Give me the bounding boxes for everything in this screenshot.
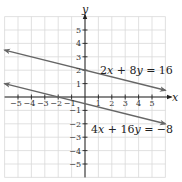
x-tick-label: 4 — [136, 99, 141, 108]
y-tick-label: 4 — [76, 39, 81, 48]
axes — [5, 15, 172, 178]
coordinate-plane: −5−4−3−2−112345−5−4−3−2−112345 y x 2x + … — [0, 0, 182, 182]
y-tick-label: −1 — [69, 106, 81, 115]
y-tick-label: 2 — [76, 66, 81, 75]
y-tick-label: −5 — [69, 160, 81, 169]
equation-label-1: 2x + 8y = 16 — [100, 64, 173, 77]
x-tick-label: −2 — [50, 99, 62, 108]
y-tick-label: 5 — [76, 26, 81, 35]
x-axis-label: x — [172, 91, 179, 104]
y-tick-label: −4 — [69, 147, 81, 156]
y-tick-label: 3 — [76, 53, 81, 62]
x-tick-label: −3 — [37, 99, 49, 108]
y-axis-label: y — [81, 3, 89, 16]
y-tick-label: −3 — [69, 133, 81, 142]
equation-label-2: 4x + 16y = −8 — [91, 123, 173, 136]
x-tick-label: 5 — [149, 99, 154, 108]
x-tick-label: 2 — [109, 99, 114, 108]
y-tick-label: 1 — [76, 80, 81, 89]
y-tick-label: −2 — [69, 120, 81, 129]
x-tick-label: −4 — [24, 99, 36, 108]
x-tick-label: 1 — [96, 99, 101, 108]
x-tick-label: −5 — [10, 99, 22, 108]
x-tick-label: 3 — [123, 99, 128, 108]
